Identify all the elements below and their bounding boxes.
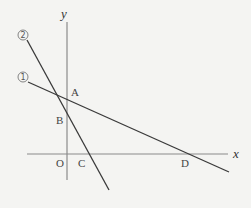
- point-a-label: A: [71, 86, 79, 98]
- line-1-label: 1: [18, 72, 28, 82]
- coordinate-diagram: y x O 2 1 A B C D: [0, 0, 251, 208]
- point-b-label: B: [56, 114, 63, 126]
- line-2-label: 2: [18, 30, 28, 40]
- y-axis-label: y: [59, 6, 67, 21]
- point-c-label: C: [78, 157, 85, 169]
- line-2-number: 2: [20, 31, 25, 40]
- line-2: [27, 40, 109, 190]
- line-1-number: 1: [20, 73, 25, 82]
- x-axis-label: x: [232, 146, 239, 161]
- origin-label: O: [56, 157, 64, 169]
- point-d-label: D: [181, 157, 189, 169]
